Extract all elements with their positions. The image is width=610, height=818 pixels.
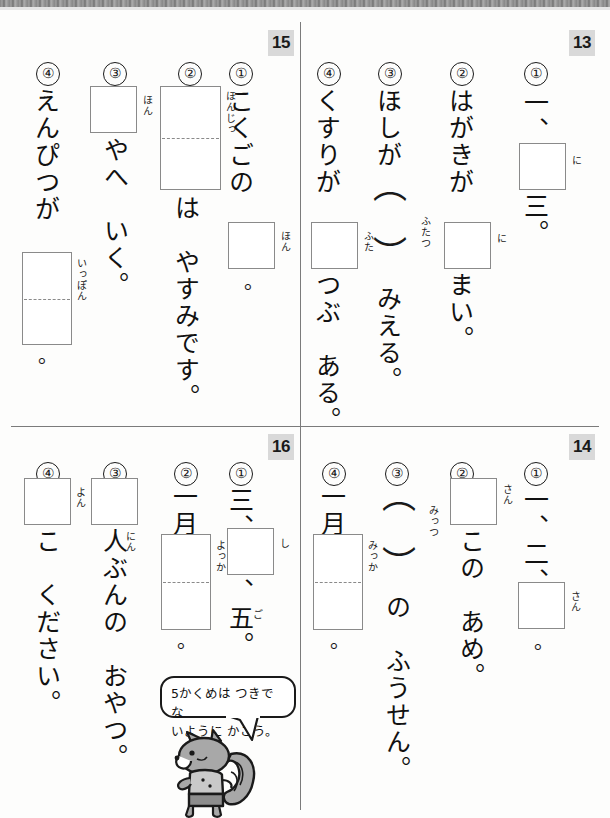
answer-box-15-1[interactable] bbox=[228, 222, 275, 269]
period-mark-14-1: 。 bbox=[534, 632, 554, 652]
hint-speech-bubble: 5かくめは つきでな いように かこう。 bbox=[160, 676, 296, 718]
box-dashed-divider bbox=[24, 299, 70, 300]
question-text-14-3-after: の ふうせん。 bbox=[381, 594, 411, 754]
question-marker-14-1: ① bbox=[524, 462, 548, 486]
question-marker-13-4: ④ bbox=[317, 62, 341, 86]
squirrel-mascot-icon bbox=[165, 728, 261, 818]
answer-box-14-2[interactable] bbox=[450, 478, 497, 525]
box-dashed-divider bbox=[315, 582, 361, 583]
furigana-14-3: みっつ bbox=[425, 505, 440, 551]
question-marker-16-1: ① bbox=[229, 462, 253, 486]
furigana-13-1: に bbox=[568, 155, 583, 185]
furigana-13-4: ふた bbox=[360, 231, 375, 261]
worksheet-page: 13 ① 一、 に 三。 ② はがきが に まい。 ③ ほしが （ ） ふたつ … bbox=[0, 0, 610, 818]
furigana-16-2: よっか bbox=[212, 540, 227, 626]
period-mark-15-4: 。 bbox=[38, 346, 58, 366]
question-marker-13-2: ② bbox=[450, 62, 474, 86]
furigana-15-3: ほん bbox=[139, 95, 154, 125]
furigana-15-2: ほんじっ bbox=[222, 91, 237, 187]
question-marker-15-4: ④ bbox=[36, 62, 60, 86]
answer-box-15-3[interactable] bbox=[90, 86, 137, 133]
section-number-16: 16 bbox=[268, 434, 294, 460]
furigana-16-3-alt: にん bbox=[122, 531, 137, 555]
question-marker-15-3: ③ bbox=[103, 62, 127, 86]
answer-box-13-4[interactable] bbox=[311, 222, 358, 269]
furigana-14-1: さん bbox=[567, 591, 582, 621]
answer-box-15-2[interactable] bbox=[160, 86, 221, 190]
question-text-15-4-before: えんぴつが bbox=[30, 88, 60, 218]
furigana-13-3: ふたつ bbox=[417, 216, 432, 260]
answer-box-16-4[interactable] bbox=[24, 478, 71, 525]
question-text-13-2-after: まい。 bbox=[444, 272, 474, 372]
question-text-13-3-before: ほしが bbox=[372, 88, 402, 166]
question-text-13-4-before: くすりが bbox=[311, 88, 341, 218]
question-marker-15-1: ① bbox=[229, 62, 253, 86]
answer-box-16-2[interactable] bbox=[161, 534, 211, 630]
section-number-13: 13 bbox=[569, 30, 595, 56]
furigana-13-2: に bbox=[493, 233, 508, 263]
furigana-16-1: し bbox=[276, 538, 291, 560]
question-text-14-1-before: 一、二、 bbox=[519, 487, 549, 592]
question-text-15-3-after: やへ いく。 bbox=[99, 137, 129, 282]
question-text-13-2-before: はがきが bbox=[444, 88, 474, 218]
period-mark-15-1: 。 bbox=[244, 272, 264, 292]
question-text-13-3-after: みえる。 bbox=[372, 286, 402, 396]
question-text-14-2-after: この あめ。 bbox=[455, 528, 485, 668]
question-text-16-4-after: こ ください。 bbox=[31, 528, 61, 708]
section-number-15: 15 bbox=[268, 30, 294, 56]
box-dashed-divider bbox=[163, 582, 209, 583]
question-text-13-1-after: 三。 bbox=[519, 193, 549, 263]
furigana-15-1: ほん bbox=[277, 231, 292, 261]
question-marker-16-2: ② bbox=[174, 462, 198, 486]
question-text-13-1-before: 一、 bbox=[519, 90, 549, 140]
furigana-15-4: いっぽん bbox=[73, 258, 88, 342]
period-mark-14-4: 。 bbox=[330, 631, 350, 651]
answer-box-14-1[interactable] bbox=[518, 582, 565, 629]
question-marker-14-4: ④ bbox=[322, 462, 346, 486]
furigana-14-2: さん bbox=[499, 484, 514, 516]
question-marker-13-3: ③ bbox=[378, 62, 402, 86]
divider-horizontal-right bbox=[301, 426, 599, 427]
divider-horizontal-left bbox=[11, 426, 300, 427]
answer-box-16-3[interactable] bbox=[91, 478, 138, 525]
answer-paren-13-3[interactable]: （ ） bbox=[370, 168, 404, 273]
scan-edge-artifact bbox=[0, 0, 610, 7]
answer-box-16-1[interactable] bbox=[227, 528, 274, 575]
question-marker-13-1: ① bbox=[524, 62, 548, 86]
answer-box-13-1[interactable] bbox=[519, 143, 566, 190]
answer-box-13-2[interactable] bbox=[444, 222, 491, 269]
answer-box-15-4[interactable] bbox=[22, 252, 72, 345]
divider-vertical-center bbox=[300, 22, 301, 810]
answer-box-14-4[interactable] bbox=[313, 534, 363, 630]
section-number-14: 14 bbox=[569, 434, 595, 460]
furigana-14-4: みっか bbox=[364, 540, 379, 626]
furigana-16-1-alt: ご bbox=[249, 609, 264, 629]
furigana-16-4: よん bbox=[72, 487, 87, 517]
question-text-13-4-after: つぶ ある。 bbox=[311, 272, 341, 412]
box-dashed-divider bbox=[162, 138, 219, 139]
scan-edge-artifact-soft bbox=[0, 7, 610, 10]
period-mark-16-2: 。 bbox=[177, 631, 197, 651]
question-text-15-2-after: は やすみです。 bbox=[170, 195, 200, 395]
answer-paren-14-3[interactable]: （ ） bbox=[379, 478, 413, 583]
question-marker-15-2: ② bbox=[178, 62, 202, 86]
